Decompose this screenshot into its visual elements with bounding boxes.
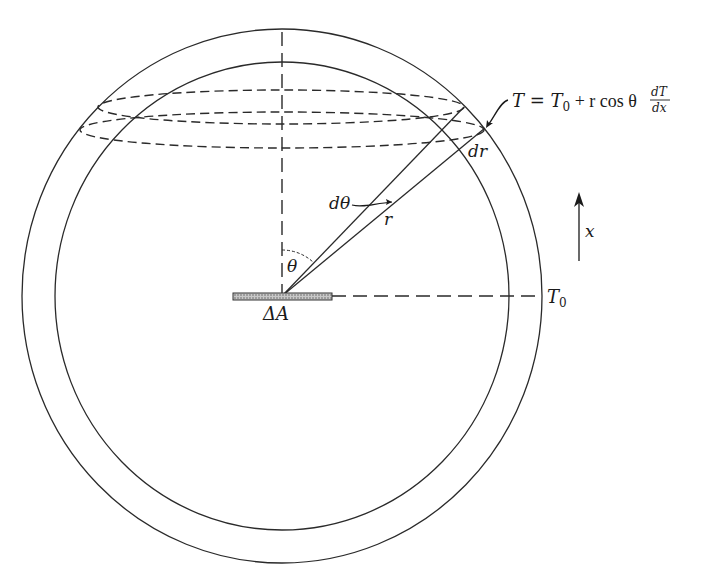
equation-arrowhead-icon — [486, 120, 493, 128]
theta-label: θ — [287, 256, 297, 276]
equation-fraction-denominator: dx — [652, 101, 667, 115]
x-axis-label: x — [585, 221, 595, 241]
t0-label: T0 — [547, 286, 567, 310]
delta-a-label: ΔA — [262, 303, 289, 324]
equation-label: T = T0 + r cos θ — [512, 90, 637, 114]
dtheta-arrowhead-icon — [386, 199, 392, 205]
area-element-delta-a — [233, 293, 332, 300]
radial-line-upper — [282, 107, 464, 296]
equation-fraction-numerator: dT — [651, 85, 668, 99]
equation-leader-arrow — [488, 100, 508, 125]
shell-diagram: T = T0 + r cos θ dT dx dr dθ r θ ΔA T0 x — [0, 0, 705, 574]
upper-ring-ellipse — [98, 90, 464, 124]
dtheta-label: dθ — [329, 193, 350, 213]
dr-label: dr — [468, 141, 488, 161]
r-label: r — [384, 209, 393, 229]
